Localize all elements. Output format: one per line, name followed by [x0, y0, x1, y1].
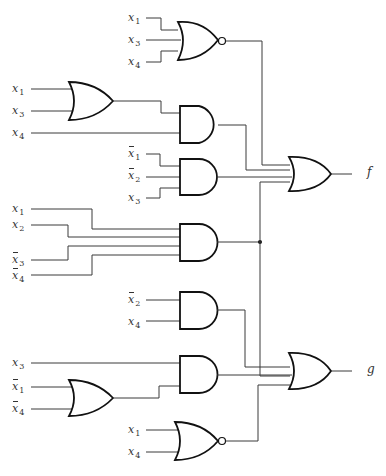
or-gate-f — [289, 157, 352, 191]
input-label-g2_in2: x3 — [12, 105, 24, 116]
and-gate-5 — [31, 182, 290, 376]
input-label-g8_in2: x4 — [12, 403, 24, 414]
input-label-g9_in1: x1 — [128, 424, 140, 435]
input-label-g6_in1: x2 — [128, 294, 140, 305]
input-label-g8_in1: x1 — [12, 381, 24, 392]
input-label-g3_in2: x4 — [12, 127, 24, 138]
input-label-g9_in2: x4 — [128, 446, 140, 457]
input-label-g4_in3: x3 — [128, 192, 140, 203]
input-label-g6_in2: x4 — [128, 316, 140, 327]
or-gate-2 — [31, 82, 180, 120]
input-label-g1_in2: x3 — [128, 34, 140, 45]
input-label-g5_in3: x3 — [12, 254, 24, 265]
and-gate-6 — [146, 292, 290, 367]
input-label-g5_in1: x1 — [12, 203, 24, 214]
nor-gate-9 — [146, 385, 290, 460]
output-label-f: f — [367, 165, 371, 179]
or-gate-g — [289, 353, 352, 389]
input-label-g4_in1: x1 — [128, 148, 140, 159]
input-label-g1_in1: x1 — [128, 12, 140, 23]
input-label-g1_in3: x4 — [128, 56, 140, 67]
output-label-g: g — [367, 362, 375, 376]
or-gate-8 — [31, 380, 180, 416]
input-label-g4_in2: x2 — [128, 170, 140, 181]
input-label-g2_in1: x1 — [12, 83, 24, 94]
input-label-g5_in4: x4 — [12, 270, 24, 281]
and-gate-4 — [146, 154, 292, 198]
nor-gate-1 — [146, 18, 290, 165]
input-label-g7_in1: x3 — [12, 357, 24, 368]
logic-circuit-diagram — [0, 0, 386, 476]
input-label-g5_in2: x2 — [12, 219, 24, 230]
